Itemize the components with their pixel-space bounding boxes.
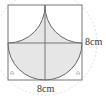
bottom-side-length-label: 8cm <box>37 84 54 94</box>
geometry-figure <box>0 0 106 96</box>
corner-mark-left <box>10 71 14 74</box>
corner-mark-right <box>76 71 80 74</box>
right-side-length-label: 8cm <box>85 37 102 47</box>
